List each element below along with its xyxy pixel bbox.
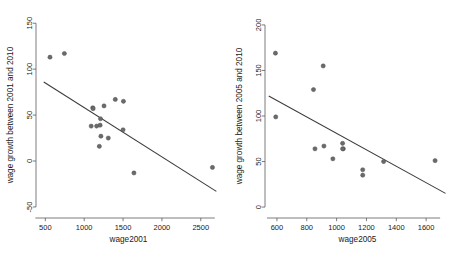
data-point bbox=[95, 124, 99, 128]
plot-svg-left: -500501001505001000150020002500wage2001w… bbox=[0, 0, 228, 278]
data-point bbox=[322, 144, 326, 148]
data-point-group bbox=[48, 51, 215, 175]
y-tick-label: 0 bbox=[254, 205, 263, 209]
x-tick-label: 1000 bbox=[76, 223, 93, 232]
x-tick-label: 2000 bbox=[154, 223, 171, 232]
data-point bbox=[340, 147, 344, 151]
y-tick-label: 50 bbox=[254, 157, 263, 165]
y-tick-label: 50 bbox=[25, 111, 34, 119]
data-point bbox=[98, 117, 102, 121]
data-point bbox=[210, 165, 214, 169]
y-tick-label: 0 bbox=[25, 159, 34, 163]
data-point bbox=[361, 173, 365, 177]
data-point bbox=[97, 144, 101, 148]
data-point bbox=[273, 51, 277, 55]
regression-line bbox=[44, 82, 217, 191]
x-axis-title: wage2005 bbox=[338, 235, 377, 244]
y-tick-label: 100 bbox=[25, 63, 34, 76]
data-point bbox=[340, 141, 344, 145]
data-point bbox=[102, 104, 106, 108]
data-point bbox=[311, 87, 315, 91]
data-point bbox=[113, 97, 117, 101]
y-tick-label: 150 bbox=[254, 64, 263, 77]
figure-container: -500501001505001000150020002500wage2001w… bbox=[0, 0, 457, 278]
y-axis-title: wage growth between 2005 and 2010 bbox=[235, 47, 244, 185]
data-point bbox=[433, 159, 437, 163]
data-point bbox=[313, 147, 317, 151]
data-point bbox=[89, 124, 93, 128]
scatter-panel-left: -500501001505001000150020002500wage2001w… bbox=[0, 0, 228, 278]
y-tick-label: 150 bbox=[25, 17, 34, 30]
scatter-panel-right: 0501001502006008001000120014001600wage20… bbox=[229, 0, 457, 278]
x-tick-label: 1400 bbox=[388, 223, 405, 232]
x-tick-label: 1200 bbox=[358, 223, 375, 232]
x-tick-label: 600 bbox=[271, 223, 284, 232]
data-point bbox=[274, 115, 278, 119]
x-tick-label: 500 bbox=[39, 223, 52, 232]
data-point bbox=[121, 128, 125, 132]
data-point bbox=[48, 55, 52, 59]
y-tick-label: 200 bbox=[254, 19, 263, 32]
data-point bbox=[331, 157, 335, 161]
data-point bbox=[62, 51, 66, 55]
y-tick-label: -50 bbox=[25, 202, 34, 213]
y-axis-title: wage growth between 2001 and 2010 bbox=[6, 46, 15, 184]
data-point bbox=[99, 134, 103, 138]
regression-line bbox=[269, 96, 446, 193]
data-point bbox=[91, 107, 95, 111]
x-tick-label: 2500 bbox=[192, 223, 209, 232]
x-tick-label: 1000 bbox=[328, 223, 345, 232]
data-point-group bbox=[273, 51, 437, 177]
data-point bbox=[132, 171, 136, 175]
plot-svg-right: 0501001502006008001000120014001600wage20… bbox=[229, 0, 457, 278]
x-axis-title: wage2001 bbox=[109, 235, 148, 244]
y-tick-label: 100 bbox=[254, 110, 263, 123]
data-point bbox=[106, 136, 110, 140]
data-point bbox=[121, 99, 125, 103]
x-tick-label: 800 bbox=[301, 223, 314, 232]
data-point bbox=[361, 168, 365, 172]
data-point bbox=[321, 64, 325, 68]
x-tick-label: 1500 bbox=[115, 223, 132, 232]
data-point bbox=[382, 159, 386, 163]
x-tick-label: 1600 bbox=[418, 223, 435, 232]
